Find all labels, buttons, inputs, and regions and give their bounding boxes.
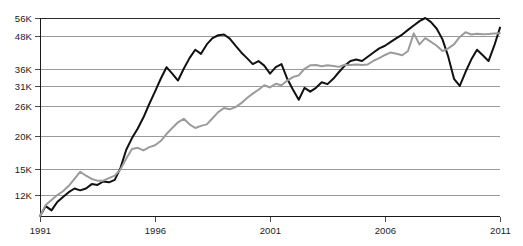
chart-container: 56K48K36K31K26K20K15K12K 199119962001200…: [0, 0, 523, 246]
y-axis-tick-label: 36K: [15, 64, 33, 75]
y-axis-tick-label: 26K: [15, 101, 33, 112]
x-axis-tick-label: 2001: [260, 225, 282, 236]
y-axis-labels-group: 56K48K36K31K26K20K15K12K: [15, 13, 33, 201]
x-axis-ticks-group: [41, 217, 501, 222]
y-axis-tick-label: 31K: [15, 81, 33, 92]
series-line-series-secondary: [40, 32, 500, 216]
y-axis-tick-label: 20K: [15, 131, 33, 142]
x-axis-labels-group: 19911996200120062011: [30, 225, 511, 236]
y-axis-tick-label: 48K: [15, 31, 33, 42]
data-series-group: [40, 18, 500, 216]
x-axis-tick-label: 2011: [490, 225, 511, 236]
x-axis-tick-label: 2006: [375, 225, 397, 236]
series-line-series-primary: [40, 18, 500, 216]
y-axis-tick-label: 15K: [15, 164, 33, 175]
y-axis-tick-label: 56K: [15, 13, 33, 24]
y-axis-tick-label: 12K: [15, 190, 33, 201]
x-axis-tick-label: 1991: [30, 225, 52, 236]
gridlines-group: [40, 19, 500, 196]
y-axis-ticks-group: [35, 19, 40, 196]
plot-frame-group: [40, 18, 500, 217]
line-chart: 56K48K36K31K26K20K15K12K 199119962001200…: [0, 0, 523, 246]
x-axis-tick-label: 1996: [145, 225, 167, 236]
